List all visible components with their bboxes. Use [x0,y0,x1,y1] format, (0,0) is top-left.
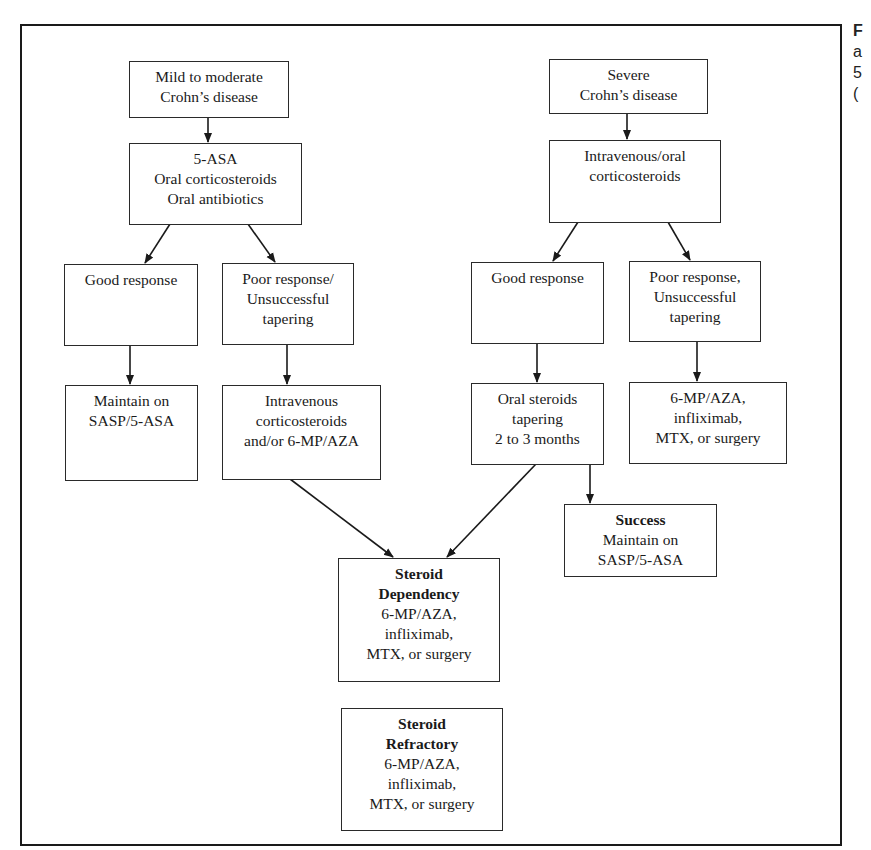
node-text: SASP/5-ASA [565,550,716,570]
node-text: tapering [472,409,603,429]
node-title: Dependency [339,584,499,604]
node-title: Steroid [339,564,499,584]
node-steroid-dependency: Steroid Dependency 6-MP/AZA, infliximab,… [338,558,500,682]
node-text: MTX, or surgery [342,794,502,814]
node-text: Unsuccessful [630,287,760,307]
figure-caption-fragment: F a 5 ( [853,20,863,104]
node-text: infliximab, [339,624,499,644]
node-text: Good response [65,270,197,290]
node-poor-response-right: Poor response, Unsuccessful tapering [629,261,761,342]
node-poor-response-left: Poor response/ Unsuccessful tapering [222,263,354,345]
node-text: tapering [630,307,760,327]
node-text: Poor response/ [223,269,353,289]
node-text: Intravenous [223,391,380,411]
node-text: Oral steroids [472,389,603,409]
node-text: 6-MP/AZA, [630,388,786,408]
node-text: Poor response, [630,267,760,287]
node-text: 6-MP/AZA, [342,754,502,774]
node-text: MTX, or surgery [339,644,499,664]
node-text: MTX, or surgery [630,428,786,448]
node-text: Good response [472,268,603,288]
node-text: Unsuccessful [223,289,353,309]
node-oral-steroids-tapering: Oral steroids tapering 2 to 3 months [471,383,604,465]
node-alternative-therapy-right: 6-MP/AZA, infliximab, MTX, or surgery [629,382,787,464]
node-text: Oral corticosteroids [130,169,301,189]
node-text: Severe [550,65,707,85]
node-text: SASP/5-ASA [66,411,197,431]
node-text: and/or 6-MP/AZA [223,431,380,451]
node-text: Crohn’s disease [550,85,707,105]
node-text: Intravenous/oral [550,146,720,166]
node-good-response-right: Good response [471,262,604,344]
node-text: infliximab, [342,774,502,794]
node-iv-oral-corticosteroids: Intravenous/oral corticosteroids [549,140,721,223]
node-text: Maintain on [565,530,716,550]
node-text: Oral antibiotics [130,189,301,209]
node-text: 6-MP/AZA, [339,604,499,624]
node-text: 2 to 3 months [472,429,603,449]
node-iv-corticosteroids-left: Intravenous corticosteroids and/or 6-MP/… [222,385,381,480]
caption-text: ( [853,83,863,104]
node-text: Crohn’s disease [130,87,288,107]
node-title: Success [565,510,716,530]
node-severe-crohns: Severe Crohn’s disease [549,59,708,114]
node-text: tapering [223,309,353,329]
node-success: Success Maintain on SASP/5-ASA [564,504,717,577]
node-text: corticosteroids [550,166,720,186]
node-text: Mild to moderate [130,67,288,87]
node-text: corticosteroids [223,411,380,431]
caption-text: 5 [853,62,863,83]
node-text: Maintain on [66,391,197,411]
caption-text: F [853,20,863,41]
node-title: Refractory [342,734,502,754]
node-steroid-refractory: Steroid Refractory 6-MP/AZA, infliximab,… [341,708,503,831]
node-title: Steroid [342,714,502,734]
caption-text: a [853,41,863,62]
node-text: 5-ASA [130,149,301,169]
node-maintain-left: Maintain on SASP/5-ASA [65,385,198,481]
node-good-response-left: Good response [64,264,198,346]
node-text: infliximab, [630,408,786,428]
node-mild-moderate-crohns: Mild to moderate Crohn’s disease [129,61,289,118]
node-first-line-therapy: 5-ASA Oral corticosteroids Oral antibiot… [129,143,302,225]
